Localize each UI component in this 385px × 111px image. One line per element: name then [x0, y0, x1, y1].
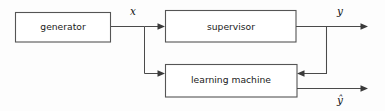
edge-supervisor-to-learning-machine — [303, 27, 327, 74]
arrowhead-into-learning-machine-right — [297, 70, 305, 77]
diagram-canvas: generator supervisor learning machine x … — [0, 0, 385, 111]
node-generator-label: generator — [40, 21, 86, 32]
signal-label-x: x — [130, 5, 136, 17]
block-diagram: generator supervisor learning machine x … — [0, 0, 385, 111]
signal-label-y-hat: ŷ — [336, 94, 344, 106]
arrowhead-output-yhat — [361, 85, 369, 92]
node-supervisor-label: supervisor — [207, 21, 255, 32]
arrowhead-into-supervisor — [158, 23, 166, 30]
arrowhead-into-learning-machine-left — [158, 70, 166, 77]
node-learning-machine-label: learning machine — [191, 74, 271, 85]
arrowhead-output-y — [361, 23, 369, 30]
signal-label-y: y — [336, 5, 344, 17]
